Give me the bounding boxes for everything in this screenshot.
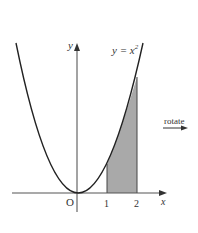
curve-label: y = x2 xyxy=(111,43,139,56)
rotate-arrow-icon xyxy=(181,126,188,131)
parabola-chart: y y = x2 O 1 2 x rotate xyxy=(0,0,198,233)
rotate-label: rotate xyxy=(164,116,185,126)
shaded-area xyxy=(107,77,137,193)
x-tick-2: 2 xyxy=(134,198,139,209)
origin-label: O xyxy=(66,196,74,208)
y-axis-arrow-icon xyxy=(74,43,80,51)
x-axis-label: x xyxy=(160,196,166,207)
y-axis-label: y xyxy=(67,39,73,51)
x-tick-1: 1 xyxy=(104,198,109,209)
